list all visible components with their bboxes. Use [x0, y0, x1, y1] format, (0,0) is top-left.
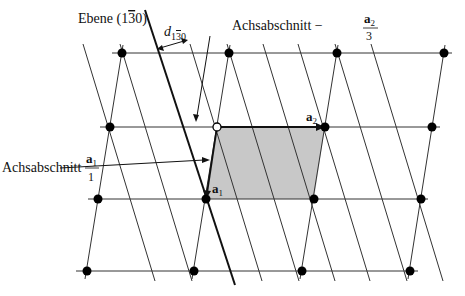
- plane-label: Ebene (130): [78, 11, 147, 27]
- intercept-a1-arrowhead: [202, 157, 210, 163]
- intercept-a2-numerator: a2: [364, 11, 375, 28]
- intercept-a2-arrowhead: [193, 114, 199, 122]
- intercept-a1-label: Achsabschnitt: [2, 160, 81, 175]
- plane-traces: [83, 44, 443, 281]
- d-label: d130: [164, 24, 186, 42]
- intercept-a1-denominator: 1: [88, 170, 94, 184]
- intercept-a1-arrow: [60, 160, 204, 168]
- d-spacing-arrow: [160, 41, 184, 48]
- open-lattice-point: [213, 123, 221, 131]
- vector-a2-label: a2: [306, 109, 317, 126]
- lattice-plane-diagram: Ebene (130) d130 Achsabschnitt − a2 3 Ac…: [0, 0, 465, 296]
- intercept-a2-label: Achsabschnitt −: [232, 18, 323, 33]
- intercept-a2-denominator: 3: [366, 29, 372, 43]
- intercept-a1-numerator: a1: [86, 151, 97, 168]
